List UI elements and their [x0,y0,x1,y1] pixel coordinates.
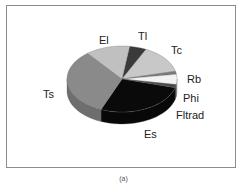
label-tc: Tc [171,44,182,56]
label-tl: Tl [138,30,147,42]
label-fltrad: Fltrad [176,109,204,121]
label-es: Es [144,128,157,140]
label-rb: Rb [187,73,201,85]
pie-slices [67,46,177,124]
pie-chart [0,0,247,190]
label-ts: Ts [43,88,54,100]
label-el: El [99,34,109,46]
label-phi: Phi [183,92,199,104]
figure-caption: (a) [0,175,247,182]
